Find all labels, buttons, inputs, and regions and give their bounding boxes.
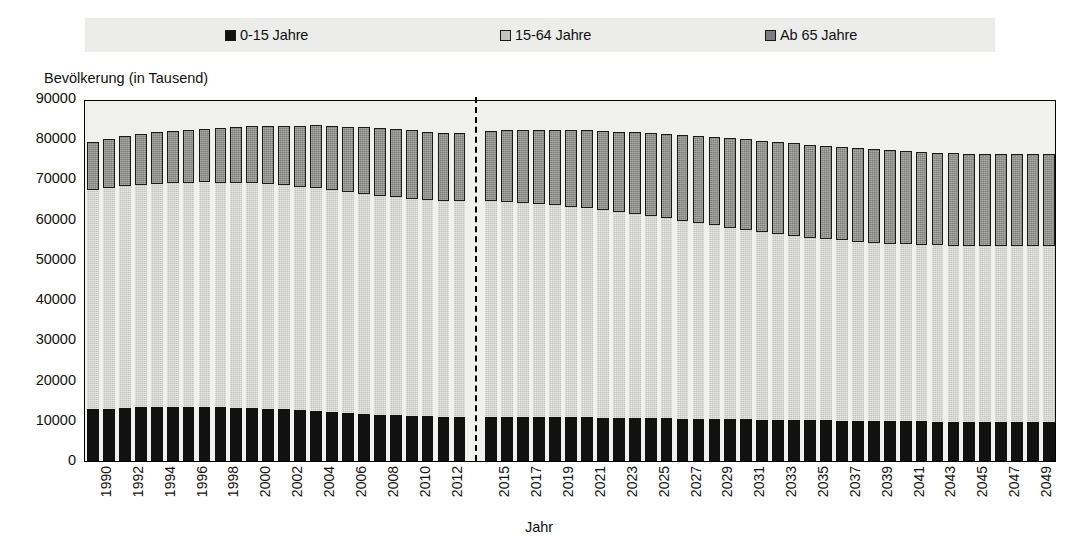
- x-tick-label: 2035: [815, 466, 831, 497]
- bar-segment-ab-65: [836, 147, 848, 241]
- bar-segment-15-64: [836, 240, 848, 420]
- bar-segment-0-15: [230, 408, 242, 461]
- chart-bar: [549, 130, 561, 461]
- bar-segment-15-64: [199, 182, 211, 406]
- x-axis-title: Jahr: [0, 519, 1078, 535]
- bar-segment-0-15: [884, 421, 896, 461]
- chart-bar: [358, 127, 370, 461]
- bar-segment-15-64: [358, 194, 370, 414]
- bar-segment-0-15: [852, 421, 864, 461]
- bar-segment-0-15: [533, 417, 545, 461]
- bar-segment-0-15: [438, 417, 450, 461]
- chart-bar: [916, 152, 928, 461]
- bar-segment-15-64: [788, 236, 800, 420]
- chart-bar: [1027, 154, 1039, 461]
- bar-segment-0-15: [549, 417, 561, 461]
- bar-segment-15-64: [979, 246, 991, 422]
- bar-segment-0-15: [1027, 422, 1039, 461]
- bar-segment-15-64: [948, 246, 960, 422]
- bar-segment-ab-65: [788, 143, 800, 236]
- bar-segment-15-64: [740, 230, 752, 419]
- bar-segment-ab-65: [422, 132, 434, 200]
- bar-segment-0-15: [963, 422, 975, 461]
- bar-segment-15-64: [517, 203, 529, 417]
- bar-segment-0-15: [1043, 422, 1055, 461]
- bar-segment-0-15: [119, 408, 131, 461]
- legend-swatch-0-15-icon: [225, 30, 236, 41]
- bar-segment-0-15: [932, 422, 944, 461]
- chart-bar: [661, 134, 673, 461]
- x-tick-label: 2039: [879, 466, 895, 497]
- chart-bar: [167, 131, 179, 461]
- bar-segment-ab-65: [645, 133, 657, 216]
- bar-segment-15-64: [183, 183, 195, 407]
- x-tick-label: 1996: [194, 466, 210, 497]
- y-tick-label: 80000: [8, 130, 76, 146]
- legend-swatch-ab-65-icon: [765, 30, 776, 41]
- chart-root: 0-15 Jahre 15-64 Jahre Ab 65 Jahre Bevöl…: [0, 0, 1078, 551]
- bar-segment-ab-65: [772, 142, 784, 234]
- bar-segment-0-15: [661, 418, 673, 461]
- bar-segment-15-64: [549, 205, 561, 417]
- bar-segment-0-15: [342, 413, 354, 461]
- bar-segment-15-64: [756, 232, 768, 419]
- bar-segment-0-15: [916, 421, 928, 461]
- bar-segment-0-15: [756, 420, 768, 461]
- bar-segment-15-64: [884, 244, 896, 422]
- chart-bar: [326, 126, 338, 461]
- bar-segment-ab-65: [884, 150, 896, 243]
- chart-legend: 0-15 Jahre 15-64 Jahre Ab 65 Jahre: [85, 18, 995, 52]
- chart-bar: [581, 130, 593, 461]
- bar-segment-15-64: [597, 210, 609, 418]
- bar-segment-ab-65: [1027, 154, 1039, 246]
- bar-segment-0-15: [868, 421, 880, 461]
- chart-bar: [804, 145, 816, 461]
- bar-segment-0-15: [740, 419, 752, 461]
- bar-segment-15-64: [454, 201, 466, 416]
- bar-segment-15-64: [533, 204, 545, 417]
- bar-segment-0-15: [390, 415, 402, 461]
- bar-segment-15-64: [693, 223, 705, 419]
- bar-segment-15-64: [1027, 246, 1039, 422]
- bar-segment-15-64: [772, 234, 784, 419]
- chart-bar: [135, 134, 147, 461]
- x-tick-label: 1994: [162, 466, 178, 497]
- bar-segment-ab-65: [326, 126, 338, 190]
- bar-segment-ab-65: [1043, 154, 1055, 245]
- bar-segment-15-64: [103, 188, 115, 409]
- bar-segment-15-64: [390, 197, 402, 415]
- bar-segment-15-64: [406, 199, 418, 416]
- bar-segment-ab-65: [438, 133, 450, 201]
- chart-bar: [278, 126, 290, 461]
- x-tick-label: 1998: [225, 466, 241, 497]
- bar-segment-ab-65: [390, 129, 402, 197]
- bar-segment-15-64: [645, 216, 657, 418]
- chart-bar: [517, 130, 529, 461]
- bar-segment-0-15: [724, 419, 736, 461]
- chart-bar: [294, 126, 306, 461]
- bar-segment-0-15: [262, 409, 274, 461]
- chart-bar: [740, 139, 752, 461]
- chart-bar: [932, 153, 944, 461]
- bar-segment-ab-65: [1011, 154, 1023, 246]
- bar-segment-ab-65: [740, 139, 752, 230]
- bar-segment-0-15: [900, 421, 912, 461]
- bar-segment-15-64: [900, 244, 912, 421]
- bar-segment-0-15: [326, 412, 338, 461]
- chart-bar: [677, 135, 689, 461]
- chart-bar: [246, 126, 258, 461]
- bar-segment-0-15: [948, 422, 960, 461]
- bar-segment-15-64: [629, 214, 641, 418]
- x-tick-label: 2015: [496, 466, 512, 497]
- bar-segment-ab-65: [629, 132, 641, 214]
- bar-segment-ab-65: [151, 132, 163, 183]
- bar-segment-15-64: [438, 201, 450, 417]
- chart-bar: [422, 132, 434, 461]
- chart-bar: [979, 154, 991, 461]
- chart-bar: [199, 129, 211, 461]
- bar-segment-15-64: [230, 183, 242, 408]
- bar-segment-ab-65: [613, 132, 625, 212]
- bar-segment-0-15: [103, 409, 115, 461]
- bar-segment-0-15: [135, 407, 147, 461]
- bar-segment-0-15: [645, 418, 657, 461]
